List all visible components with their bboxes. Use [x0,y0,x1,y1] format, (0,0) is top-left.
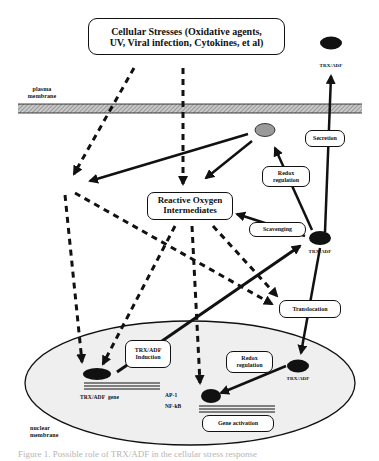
cellular-stresses-line2: UV, Viral infection, Cytokines, et al) [110,37,264,48]
trx-cytoplasm-molecule [309,231,331,245]
plasma-membrane-line2: membrane [22,93,62,100]
trx-nuclear-molecule [287,360,309,373]
redox-lower-line1: Redox [236,355,262,362]
reactive-oxygen-box: Reactive Oxygen Intermediates [147,192,233,220]
scavenging-label: Scavenging [263,226,292,233]
redox-lower-line2: regulation [236,362,262,369]
trx-nuclear-label: TRX/ADF [278,376,318,382]
gene-activation-box: Gene activation [202,415,274,432]
trx-extracellular-molecule [320,37,342,50]
reactive-oxygen-line2: Intermediates [158,206,223,216]
nuclear-membrane-line2: membrane [30,432,70,439]
dashed-arrow-stress-to-left [74,68,134,174]
trx-extracellular-label: TRX/ADF [311,63,351,69]
nucleus [25,321,355,445]
arrow-redox-upper [275,148,312,230]
trx-induction-line1: TRX/ADF [135,347,162,354]
plasma-membrane [18,104,362,113]
figure-caption: Figure 1. Possible role of TRX/ADF in th… [18,449,378,459]
redox-regulation-upper-box: Redox regulation [262,166,310,187]
arrow-grey-to-left [90,134,248,181]
trx-gene-label: TRX/ADF gene [80,394,152,400]
scavenging-box: Scavenging [249,222,306,237]
nuclear-membrane-label: nuclear membrane [30,425,70,438]
secretion-label: Secretion [313,135,337,142]
trx-cytoplasm-label: TRX/ADF [300,249,340,255]
plasma-membrane-label: plasma membrane [22,86,62,99]
trx-induction-box: TRX/ADF Induction [125,340,171,368]
translocation-label: Translocation [292,306,327,313]
nfkb-label: NF-kB [165,403,195,409]
arrow-grey-to-roi [206,141,252,178]
ap1-nfkb-molecule [201,389,221,403]
secretion-box: Secretion [305,130,345,147]
arrow-secretion [325,76,331,232]
grey-molecule [255,124,275,137]
cellular-stresses-box: Cellular Stresses (Oxidative agents, UV,… [88,18,285,55]
translocation-box: Translocation [279,300,341,318]
trx-induction-line2: Induction [135,354,162,361]
plasma-membrane-line1: plasma [22,86,62,93]
redox-regulation-lower-box: Redox regulation [226,351,273,373]
cellular-stresses-line1: Cellular Stresses (Oxidative agents, [110,26,264,37]
nuclear-membrane-line1: nuclear [30,425,70,432]
redox-upper-line1: Redox [273,170,299,177]
trx-gene-molecule [83,368,111,380]
ap1-label: AP-1 [165,392,195,398]
redox-upper-line2: regulation [273,177,299,184]
gene-activation-label: Gene activation [218,420,258,427]
